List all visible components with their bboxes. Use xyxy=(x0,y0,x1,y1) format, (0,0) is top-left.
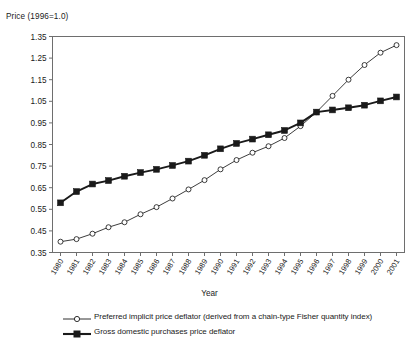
y-tick-label: 1.25 xyxy=(31,54,47,63)
y-tick-label: 0.35 xyxy=(31,249,47,258)
y-tick-label: 0.75 xyxy=(31,162,47,171)
x-tick-label: 1981 xyxy=(65,257,82,276)
legend-item-gross-domestic-purchases-price-deflator: Gross domestic purchases price deflator xyxy=(62,324,412,339)
y-tick-label: 1.35 xyxy=(31,33,47,42)
series-preferred-implicit xyxy=(58,43,399,245)
x-tick-label: 1998 xyxy=(337,257,354,276)
x-tick-label: 1986 xyxy=(145,257,162,276)
x-tick-label: 1991 xyxy=(225,257,242,276)
legend-label-gross-domestic: Gross domestic purchases price deflator xyxy=(92,327,235,336)
y-tick-label: 0.55 xyxy=(31,205,47,214)
legend-item-preferred-implicit-price-deflator: Preferred implicit price deflator (deriv… xyxy=(62,309,412,324)
x-axis-title: Year xyxy=(0,289,419,298)
x-tick-label: 1990 xyxy=(209,257,226,276)
y-tick-label: 1.15 xyxy=(31,76,47,85)
open-circle-marker-icon xyxy=(62,311,92,323)
x-tick-label: 1996 xyxy=(305,257,322,276)
x-tick-label: 2001 xyxy=(385,257,402,276)
x-tick-label: 1989 xyxy=(193,257,210,276)
y-tick-label: 0.45 xyxy=(31,227,47,236)
y-tick-label: 0.95 xyxy=(31,119,47,128)
x-tick-label: 1984 xyxy=(113,257,130,276)
x-tick-label: 1987 xyxy=(161,257,178,276)
x-tick-label: 1992 xyxy=(241,257,258,276)
chart-plot: 1980198119821983198419851986198719881989… xyxy=(0,0,419,354)
x-tick-label: 1983 xyxy=(97,257,114,276)
x-tick-label: 1997 xyxy=(321,257,338,276)
x-tick-label: 2000 xyxy=(369,257,386,276)
y-tick-label: 0.85 xyxy=(31,141,47,150)
x-tick-label: 1993 xyxy=(257,257,274,276)
y-tick-label: 0.65 xyxy=(31,184,47,193)
filled-square-marker-icon xyxy=(62,326,92,338)
chart-legend: Preferred implicit price deflator (deriv… xyxy=(62,309,412,339)
caption-fragment xyxy=(4,344,334,354)
x-tick-label: 1982 xyxy=(81,257,98,276)
legend-label-preferred: Preferred implicit price deflator (deriv… xyxy=(92,312,372,321)
figure-container: Price (1996=1.0) 19801981198219831984198… xyxy=(0,0,419,354)
x-tick-label: 1994 xyxy=(273,257,290,276)
y-tick-label: 1.05 xyxy=(31,97,47,106)
series-gross-domestic-purchases xyxy=(58,94,400,206)
x-tick-label: 1985 xyxy=(129,257,146,276)
x-tick-label: 1980 xyxy=(49,257,66,276)
x-tick-label: 1999 xyxy=(353,257,370,276)
x-tick-label: 1995 xyxy=(289,257,306,276)
x-tick-label: 1988 xyxy=(177,257,194,276)
